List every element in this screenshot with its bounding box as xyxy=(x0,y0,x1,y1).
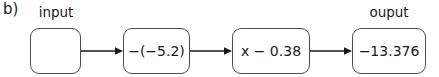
arrow-2 xyxy=(190,46,232,56)
output-label: ouput xyxy=(352,6,426,20)
operation-box-2-text: x − 0.38 xyxy=(241,44,301,58)
operation-box-2[interactable]: x − 0.38 xyxy=(232,28,310,74)
operation-box-1-text: −(−5.2) xyxy=(128,44,185,58)
arrow-1 xyxy=(81,46,123,56)
arrow-3 xyxy=(310,46,352,56)
input-label: input xyxy=(30,6,82,20)
operation-box-1[interactable]: −(−5.2) xyxy=(123,28,190,74)
output-box[interactable]: −13.376 xyxy=(352,28,426,74)
output-box-text: −13.376 xyxy=(359,44,420,58)
flow-diagram-figure: b) input ouput −(−5.2) x − 0.38 −13.376 xyxy=(0,0,439,77)
panel-label: b) xyxy=(3,2,18,17)
input-box[interactable] xyxy=(30,28,81,74)
